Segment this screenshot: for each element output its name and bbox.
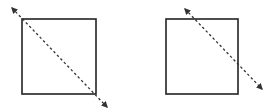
left-panel (12, 8, 107, 107)
right-double-arrow-line (185, 9, 262, 89)
diagram-canvas (0, 0, 272, 111)
left-double-arrow-line (12, 8, 107, 107)
right-panel (166, 9, 262, 94)
right-square (166, 19, 238, 94)
